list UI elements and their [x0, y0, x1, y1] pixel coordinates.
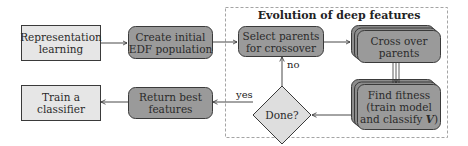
- find-fitness-line2: (train model: [366, 101, 432, 113]
- find-fitness-line3-pre: and classify: [360, 113, 426, 125]
- done-label: Done?: [253, 107, 311, 123]
- find-fitness-label: Find fitness (train model and classify V…: [357, 84, 441, 130]
- find-fitness-line1: Find fitness: [368, 89, 430, 101]
- representation-learning-line2: learning: [39, 43, 83, 55]
- edge-label-no: no: [287, 59, 299, 70]
- find-fitness-line3: and classify V): [360, 113, 438, 125]
- select-parents-line2: for crossover: [246, 42, 316, 54]
- find-fitness-line3-post: ): [434, 113, 438, 125]
- select-parents-label: Select parents for crossover: [238, 26, 324, 57]
- create-population-line2: EDF population: [129, 43, 213, 55]
- return-best-label: Return best features: [128, 87, 213, 119]
- representation-learning-line1: Representation: [20, 31, 102, 43]
- group-title: Evolution of deep features: [244, 9, 434, 22]
- train-classifier-label: Train a classifier: [21, 85, 101, 121]
- create-population-label: Create initial EDF population: [128, 26, 213, 59]
- representation-learning-label: Representation learning: [21, 25, 101, 61]
- cross-over-line1: Cross over: [371, 35, 428, 47]
- create-population-line1: Create initial: [136, 31, 206, 43]
- train-classifier-line2: classifier: [37, 103, 85, 115]
- cross-over-label: Cross over parents: [357, 30, 441, 63]
- cross-over-line2: parents: [379, 47, 420, 59]
- select-parents-line1: Select parents: [242, 30, 319, 42]
- return-best-line2: features: [149, 103, 193, 115]
- return-best-line1: Return best: [139, 91, 202, 103]
- variable-v: V: [426, 113, 434, 125]
- train-classifier-line1: Train a: [42, 91, 80, 103]
- edge-label-yes: yes: [236, 89, 253, 100]
